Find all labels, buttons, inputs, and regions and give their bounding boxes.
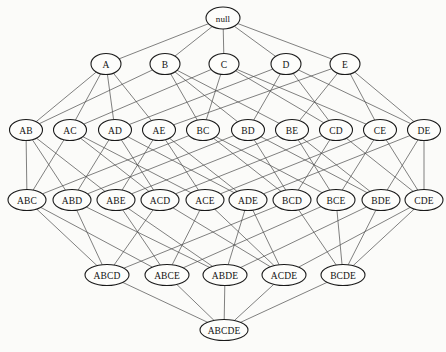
lattice-edge: [39, 70, 152, 124]
lattice-edge: [128, 137, 235, 193]
lattice-edge: [175, 27, 212, 57]
lattice-edge: [169, 138, 237, 191]
lattice-edge: [123, 210, 161, 265]
lattice-edge: [348, 210, 376, 265]
node-label: BDE: [371, 196, 390, 206]
lattice-node-d[interactable]: D: [271, 54, 301, 75]
node-label: AC: [63, 126, 76, 136]
lattice-edge: [298, 70, 410, 124]
lattice-edge: [75, 74, 100, 120]
lattice-node-e[interactable]: E: [330, 54, 360, 75]
lattice-node-ac[interactable]: AC: [54, 120, 87, 141]
lattice-node-bcd[interactable]: BCD: [273, 190, 311, 211]
lattice-node-ad[interactable]: AD: [99, 120, 132, 141]
lattice-node-acd[interactable]: ACD: [141, 190, 179, 211]
lattice-edge: [223, 29, 224, 54]
lattice-node-bde[interactable]: BDE: [362, 190, 400, 211]
node-label: ACDE: [271, 271, 297, 281]
lattice-node-c[interactable]: C: [209, 54, 239, 75]
lattice-node-ace[interactable]: ACE: [186, 190, 224, 211]
node-label: C: [221, 60, 227, 70]
lattice-edge: [224, 286, 225, 320]
node-label: AE: [153, 126, 166, 136]
node-label: BD: [241, 126, 254, 136]
lattice-edge: [215, 209, 275, 266]
lattice-edge: [220, 136, 366, 194]
lattice-edge: [175, 136, 322, 194]
node-label: BCD: [282, 196, 302, 206]
lattice-node-abd[interactable]: ABD: [53, 190, 91, 211]
lattice-node-acde[interactable]: ACDE: [262, 265, 306, 286]
lattice-node-abc[interactable]: ABC: [8, 190, 46, 211]
lattice-node-cde[interactable]: CDE: [405, 190, 443, 211]
lattice-edge: [300, 73, 338, 121]
lattice-edge: [254, 74, 281, 120]
lattice-node-ae[interactable]: AE: [143, 120, 176, 141]
lattice-edge: [129, 69, 273, 124]
lattice-edge: [171, 74, 198, 120]
lattice-node-bc[interactable]: BC: [187, 120, 220, 141]
lattice-edge: [37, 209, 97, 266]
lattice-node-abde[interactable]: ABDE: [203, 265, 247, 286]
lattice-edge: [36, 72, 96, 122]
lattice-node-bcde[interactable]: BCDE: [321, 265, 365, 286]
lattice-edge: [299, 207, 411, 267]
node-label: D: [283, 60, 290, 70]
node-label: ABDE: [212, 271, 238, 281]
node-label: CD: [329, 126, 342, 136]
lattice-node-bce[interactable]: BCE: [317, 190, 355, 211]
lattice-canvas: nullABCDEABACADAEBCBDBECDCEDEABCABDABEAC…: [0, 0, 446, 352]
lattice-edge: [346, 138, 413, 191]
lattice-node-null[interactable]: null: [206, 7, 240, 29]
node-label: ABCD: [94, 271, 121, 281]
lattice-edge: [241, 282, 328, 322]
lattice-node-abe[interactable]: ABE: [97, 190, 135, 211]
node-label: AB: [19, 126, 32, 136]
lattice-node-ab[interactable]: AB: [10, 120, 43, 141]
lattice-node-abcd[interactable]: ABCD: [85, 265, 129, 286]
lattice-node-cd[interactable]: CD: [320, 120, 353, 141]
lattice-edge: [234, 284, 274, 320]
node-label: E: [342, 60, 348, 70]
node-label: BE: [286, 126, 298, 136]
lattice-edge: [113, 73, 151, 121]
node-label: ABCE: [154, 271, 180, 281]
lattice-edge: [241, 207, 367, 268]
node-label: ABD: [62, 196, 82, 206]
node-label: ABCDE: [208, 326, 241, 336]
node-label: CE: [374, 126, 386, 136]
node-label: ACE: [195, 196, 214, 206]
lattice-node-a[interactable]: A: [91, 54, 121, 75]
lattice-edge: [42, 136, 189, 194]
lattice-edge: [337, 210, 342, 264]
lattice-edge: [41, 207, 153, 267]
node-label: null: [216, 14, 231, 24]
lattice-edge: [253, 210, 279, 265]
lattice-edge: [36, 138, 105, 191]
node-label: ABE: [106, 196, 125, 206]
node-label: DE: [418, 126, 431, 136]
lattice-node-abcde[interactable]: ABCDE: [200, 320, 248, 341]
node-label: CDE: [414, 196, 433, 206]
lattice-node-bd[interactable]: BD: [232, 120, 265, 141]
lattice-edge: [216, 137, 323, 193]
lattice-node-be[interactable]: BE: [276, 120, 309, 141]
lattice-node-de[interactable]: DE: [408, 120, 441, 141]
node-label: ADE: [238, 196, 258, 206]
lattice-edge: [350, 74, 375, 120]
lattice-node-ce[interactable]: CE: [364, 120, 397, 141]
lattice-edge: [228, 210, 245, 264]
lattice-edge: [177, 70, 279, 123]
lattice-node-abce[interactable]: ABCE: [145, 265, 189, 286]
lattice-edge: [26, 141, 27, 190]
node-label: ABC: [17, 196, 37, 206]
lattice-diagram: nullABCDEABACADAEBCBDBECDCEDEABCABDABEAC…: [0, 0, 446, 352]
node-label: B: [162, 60, 168, 70]
lattice-edge: [77, 210, 102, 265]
node-label: A: [103, 60, 110, 70]
lattice-edge: [165, 140, 198, 190]
node-label: BC: [197, 126, 210, 136]
lattice-edge: [172, 210, 200, 265]
lattice-node-ade[interactable]: ADE: [229, 190, 267, 211]
lattice-node-b[interactable]: B: [150, 54, 180, 75]
